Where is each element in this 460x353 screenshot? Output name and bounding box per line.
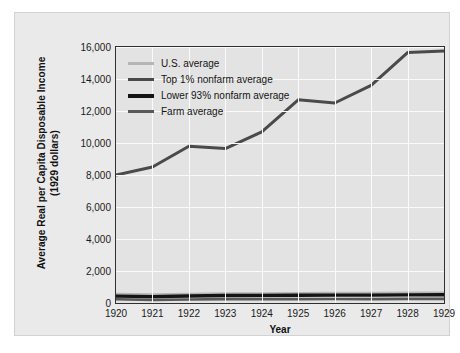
legend-swatch-icon <box>128 62 154 65</box>
x-axis-tick-label: 1925 <box>278 308 318 319</box>
series-line <box>116 295 444 297</box>
y-axis-tick-label: 12,000 <box>49 106 111 117</box>
x-axis-tick-label: 1929 <box>424 308 460 319</box>
x-axis-tick-label: 1923 <box>205 308 245 319</box>
x-axis-tick-label: 1927 <box>351 308 391 319</box>
legend-item: Lower 93% nonfarm average <box>128 89 289 102</box>
y-axis-tick-label: 2,000 <box>49 266 111 277</box>
gridline-vertical <box>298 47 299 303</box>
figure-card: Average Real per Capita Disposable Incom… <box>14 12 450 336</box>
y-axis-tick-label: 4,000 <box>49 234 111 245</box>
legend-swatch-icon <box>128 110 154 113</box>
x-axis-tick-label: 1922 <box>169 308 209 319</box>
legend-label: U.S. average <box>161 58 219 69</box>
x-axis-tick-label: 1924 <box>242 308 282 319</box>
x-axis-tick-label: 1926 <box>315 308 355 319</box>
legend-item: U.S. average <box>128 57 289 70</box>
gridline-horizontal <box>116 271 444 272</box>
legend-label: Farm average <box>161 106 223 117</box>
legend-label: Top 1% nonfarm average <box>161 74 273 85</box>
gridline-horizontal <box>116 175 444 176</box>
gridline-horizontal <box>116 143 444 144</box>
legend-item: Top 1% nonfarm average <box>128 73 289 86</box>
x-axis-title: Year <box>115 324 445 335</box>
legend-label: Lower 93% nonfarm average <box>161 90 289 101</box>
series-line <box>116 299 444 300</box>
chart-legend: U.S. averageTop 1% nonfarm averageLower … <box>128 57 289 118</box>
gridline-vertical <box>335 47 336 303</box>
gridline-vertical <box>371 47 372 303</box>
y-axis-tick-label: 0 <box>49 298 111 309</box>
y-axis-tick-label: 14,000 <box>49 74 111 85</box>
y-axis-tick-label: 16,000 <box>49 42 111 53</box>
legend-swatch-icon <box>128 94 154 98</box>
x-axis-tick-labels: 1920192119221923192419251926192719281929 <box>115 308 445 322</box>
y-axis-tick-label: 6,000 <box>49 202 111 213</box>
x-axis-tick-label: 1920 <box>96 308 136 319</box>
y-axis-tick-label: 8,000 <box>49 170 111 181</box>
gridline-horizontal <box>116 47 444 48</box>
x-axis-tick-label: 1928 <box>388 308 428 319</box>
gridline-horizontal <box>116 239 444 240</box>
gridline-vertical <box>408 47 409 303</box>
x-axis-tick-label: 1921 <box>132 308 172 319</box>
legend-swatch-icon <box>128 78 154 81</box>
y-axis-tick-labels: 02,0004,0006,0008,00010,00012,00014,0001… <box>47 46 111 304</box>
y-axis-tick-label: 10,000 <box>49 138 111 149</box>
legend-item: Farm average <box>128 105 289 118</box>
gridline-horizontal <box>116 207 444 208</box>
